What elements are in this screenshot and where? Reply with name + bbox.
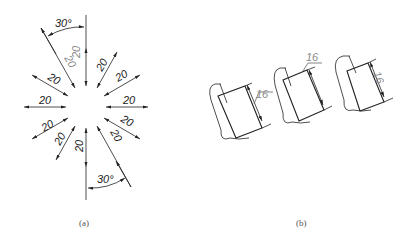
figure-b-labels: 16 16 16 (256, 51, 387, 100)
svg-text:30°: 30° (55, 17, 72, 29)
svg-text:20: 20 (38, 94, 52, 106)
caption-a: (a) (79, 218, 89, 228)
svg-text:20: 20 (51, 130, 68, 148)
svg-text:20: 20 (122, 94, 136, 106)
svg-text:20: 20 (93, 56, 110, 74)
figure-a-dimension-orientation (24, 15, 148, 200)
svg-text:20: 20 (118, 112, 136, 129)
svg-text:16: 16 (371, 70, 387, 86)
part-view-2 (274, 63, 332, 123)
part-view-3 (335, 56, 393, 111)
technical-drawing: 30° 30° 20 20 20 20 20 20 20 20 20 20 20… (0, 0, 405, 247)
svg-text:20: 20 (112, 67, 130, 84)
svg-text:16: 16 (306, 51, 319, 63)
caption-b: (b) (296, 218, 307, 228)
figure-b-part-views (210, 56, 393, 139)
svg-text:30°: 30° (97, 173, 114, 185)
svg-text:20: 20 (38, 117, 56, 134)
figure-a-labels: 30° 30° 20 20 20 20 20 20 20 20 20 20 20… (38, 17, 136, 185)
svg-text:20: 20 (73, 139, 85, 153)
svg-text:16: 16 (256, 88, 269, 100)
